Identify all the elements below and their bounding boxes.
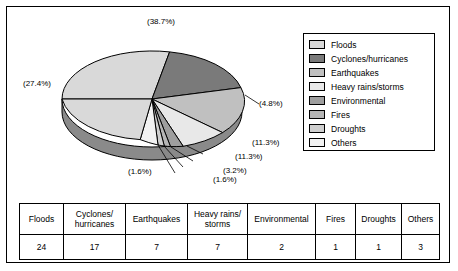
pie-label-heavy-rains: (11.3%) [235,152,262,161]
header-line: Heavy rains/ [194,209,241,219]
legend-label: Floods [331,40,357,50]
pie-slices [62,51,245,147]
legend-swatch-icon [309,40,325,49]
table-value-cell: 1 [316,235,356,260]
legend-label: Others [331,138,357,148]
chart-frame: (38.7%) (27.4%) (4.8%) (11.3%) (11.3%) (… [6,6,450,263]
data-table: Floods Cyclones/hurricanes Earthquakes H… [19,203,440,260]
table-header-cell: Droughts [356,204,402,235]
legend-label: Droughts [331,124,366,134]
table-header-cell: Others [402,204,440,235]
pie-label-droughts: (1.6%) [128,167,152,176]
table-value-row: 24 17 7 7 2 1 1 3 [20,235,440,260]
legend-item-droughts: Droughts [309,122,429,135]
header-line: Earthquakes [133,214,181,224]
legend-label: Fires [331,110,350,120]
legend-item-environmental: Environmental [309,94,429,107]
chart-screenshot: (38.7%) (27.4%) (4.8%) (11.3%) (11.3%) (… [0,0,458,271]
legend-item-heavy-rains: Heavy rains/storms [309,80,429,93]
table-header-cell: Cyclones/hurricanes [64,204,126,235]
header-line: hurricanes [75,219,115,229]
header-line: Droughts [361,214,396,224]
legend-swatch-icon [309,110,325,119]
table-value-cell: 24 [20,235,64,260]
legend-label: Environmental [331,96,385,106]
pie-label-fires: (1.6%) [213,175,237,184]
legend-item-floods: Floods [309,38,429,51]
header-line: Others [408,214,434,224]
pie-label-cyclones: (27.4%) [23,79,51,88]
table-header-cell: Floods [20,204,64,235]
table-value-cell: 17 [64,235,126,260]
legend-label: Heavy rains/storms [331,82,404,92]
pie-label-others: (4.8%) [259,99,283,108]
header-line: Environmental [254,214,308,224]
table-value-cell: 7 [188,235,248,260]
legend-swatch-icon [309,96,325,105]
pie-label-environmental: (3.2%) [223,166,247,175]
data-table-wrapper: Floods Cyclones/hurricanes Earthquakes H… [19,203,439,260]
table-header-cell: Environmental [248,204,316,235]
table-value-cell: 2 [248,235,316,260]
table-value-cell: 1 [356,235,402,260]
header-line: Floods [29,214,55,224]
table-header-cell: Fires [316,204,356,235]
legend-swatch-icon [309,124,325,133]
legend-label: Cyclones/hurricanes [331,54,408,64]
legend: Floods Cyclones/hurricanes Earthquakes H… [303,33,435,151]
header-line: Fires [326,214,345,224]
legend-item-others: Others [309,136,429,149]
legend-swatch-icon [309,68,325,77]
pie-label-earthquakes: (11.3%) [252,138,279,147]
legend-item-fires: Fires [309,108,429,121]
header-line: storms [205,219,231,229]
pie-label-floods: (38.7%) [147,17,175,26]
legend-item-earthquakes: Earthquakes [309,66,429,79]
slice-floods [62,51,170,99]
pie-chart: (38.7%) (27.4%) (4.8%) (11.3%) (11.3%) (… [7,7,297,187]
legend-swatch-icon [309,54,325,63]
table-header-cell: Earthquakes [126,204,188,235]
table-value-cell: 7 [126,235,188,260]
table-header-cell: Heavy rains/storms [188,204,248,235]
legend-swatch-icon [309,138,325,147]
legend-label: Earthquakes [331,68,379,78]
legend-item-cyclones: Cyclones/hurricanes [309,52,429,65]
legend-swatch-icon [309,82,325,91]
table-value-cell: 3 [402,235,440,260]
table-header-row: Floods Cyclones/hurricanes Earthquakes H… [20,204,440,235]
header-line: Cyclones/ [76,209,113,219]
